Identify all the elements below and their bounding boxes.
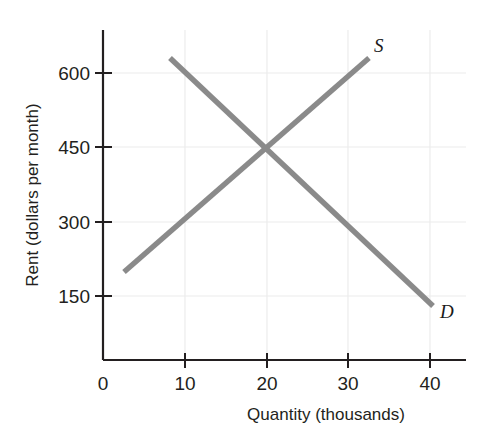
- x-tick-label-0: 0: [98, 373, 109, 394]
- supply-demand-chart: 600 450 300 150 0 10 20 30 40 Rent (doll…: [0, 0, 490, 439]
- x-tick-label-30: 30: [337, 373, 358, 394]
- x-tick-label-40: 40: [419, 373, 440, 394]
- x-tick-label-20: 20: [256, 373, 277, 394]
- demand-curve-label: D: [439, 301, 454, 322]
- x-tick-label-10: 10: [174, 373, 195, 394]
- x-axis-title: Quantity (thousands): [247, 405, 405, 424]
- chart-figure: 600 450 300 150 0 10 20 30 40 Rent (doll…: [0, 0, 490, 439]
- y-tick-label-600: 600: [58, 63, 90, 84]
- y-axis-title: Rent (dollars per month): [23, 103, 42, 286]
- y-tick-label-300: 300: [58, 212, 90, 233]
- y-tick-label-450: 450: [58, 137, 90, 158]
- y-tick-label-150: 150: [58, 286, 90, 307]
- supply-curve-label: S: [374, 35, 384, 56]
